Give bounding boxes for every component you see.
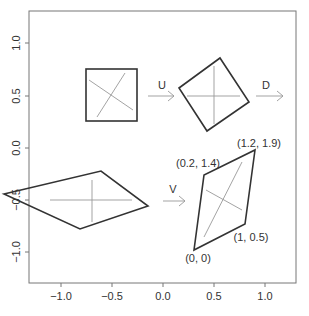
vertex-label-p2: (1.2, 1.9) [237,137,281,149]
vertex-label-origin: (0, 0) [185,252,211,264]
unit-square-shape [86,69,137,121]
transform-u-arrow: U [148,79,174,101]
rotated-square-shape [179,58,249,131]
diagram-canvas: −1.0 −0.5 0.0 0.5 1.0 1.0 0.5 0.0 −0.5 −… [0,0,309,316]
y-tick-label: −1.0 [10,241,22,263]
y-tick-label: 0.0 [10,140,22,155]
x-tick-label: 1.0 [257,290,272,302]
transform-v-arrow: V [163,183,185,206]
final-parallelogram-shape: (0, 0) (0.2, 1.4) (1.2, 1.9) (1, 0.5) [176,137,281,264]
vertex-label-p3: (1, 0.5) [234,231,269,243]
transform-d-label: D [262,79,270,91]
x-tick-label: −1.0 [50,290,72,302]
transform-u-label: U [158,79,166,91]
transform-d-arrow: D [256,79,283,101]
x-tick-label: 0.5 [206,290,221,302]
y-tick-label: 1.0 [10,35,22,50]
x-axis: −1.0 −0.5 0.0 0.5 1.0 [50,283,273,302]
x-tick-label: −0.5 [101,290,123,302]
y-tick-label: 0.5 [10,88,22,103]
x-tick-label: 0.0 [155,290,170,302]
transform-v-label: V [169,183,177,195]
y-axis: 1.0 0.5 0.0 −0.5 −1.0 [10,35,29,263]
vertex-label-p1: (0.2, 1.4) [176,157,220,169]
